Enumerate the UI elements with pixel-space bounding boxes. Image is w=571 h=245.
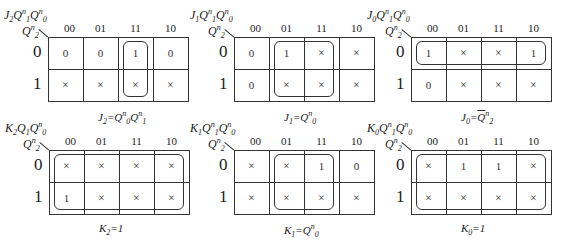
var-q0-subscript: 0	[229, 15, 233, 24]
equals-sign: =	[472, 222, 479, 234]
term-subscript: 0	[312, 117, 316, 126]
expression-term: Q	[303, 224, 311, 236]
kmap-cell: 0	[234, 69, 269, 101]
column-header: 11	[481, 22, 516, 34]
term-subscript: 2	[489, 117, 493, 126]
column-header: 01	[269, 22, 304, 34]
corner-diagonal	[401, 29, 411, 37]
kmap-cell: ×	[339, 69, 374, 101]
row-variable-label: Qn2	[23, 136, 40, 153]
corner-variable-label: K0Qn1Qn0	[367, 120, 412, 137]
kmap-cell: 0	[234, 37, 269, 69]
kmap-cell: ×	[339, 182, 374, 214]
var-q2-subscript: 2	[221, 31, 225, 40]
grouping-loop	[274, 154, 334, 210]
var-q0-subscript: 0	[43, 15, 47, 24]
var-q2: Q	[385, 137, 394, 151]
kmap-cell: ×	[234, 182, 269, 214]
corner-diagonal	[38, 29, 48, 37]
column-header: 01	[84, 135, 119, 147]
column-header: 00	[238, 22, 273, 34]
var-q1: Q	[379, 121, 388, 135]
kmap-cell: 0	[153, 37, 188, 69]
var-q2: Q	[22, 24, 31, 38]
row-header: 1	[219, 187, 228, 207]
var-q2-subscript: 2	[398, 144, 402, 153]
var-q0-subscript: 0	[406, 15, 410, 24]
output-variable: K	[5, 121, 13, 135]
corner-diagonal	[39, 142, 49, 150]
row-variable-label: Qn2	[208, 23, 225, 40]
kmap-cell: 0	[83, 37, 118, 69]
kmap-cell: ×	[83, 69, 118, 101]
row-header: 0	[33, 42, 42, 62]
var-q1: Q	[376, 8, 385, 22]
var-q2-subscript: 2	[36, 144, 40, 153]
column-header: 10	[153, 22, 188, 34]
kmap-cell: 0	[48, 37, 83, 69]
corner-variable-label: J2Qn1Qn0	[4, 7, 47, 24]
output-variable: K	[367, 121, 375, 135]
column-header: 00	[53, 135, 88, 147]
var-q2-subscript: 2	[398, 31, 402, 40]
var-q0: Q	[216, 8, 225, 22]
column-header: 11	[304, 135, 339, 147]
row-header: 0	[396, 42, 405, 62]
row-variable-label: Qn2	[385, 136, 402, 153]
row-header: 1	[219, 74, 228, 94]
corner-variable-label: J1Qn1Qn0	[190, 7, 233, 24]
var-q0-subscript: 0	[408, 128, 412, 137]
column-header: 11	[119, 135, 154, 147]
column-header: 01	[269, 135, 304, 147]
kmap-cell: ×	[234, 150, 269, 182]
column-header: 01	[83, 22, 118, 34]
simplified-expression: K0=1	[461, 222, 485, 237]
grouping-loop	[416, 41, 546, 65]
var-q2: Q	[23, 137, 32, 151]
column-header: 11	[118, 22, 153, 34]
kmap-cell: ×	[481, 69, 516, 101]
row-variable-label: Qn2	[208, 136, 225, 153]
column-header: 00	[238, 135, 273, 147]
column-header: 11	[304, 22, 339, 34]
output-variable: K	[190, 121, 198, 135]
kmap-cell: ×	[48, 69, 83, 101]
row-header: 0	[219, 155, 228, 175]
corner-variable-label: K1Qn1Qn0	[190, 120, 235, 137]
grouping-loop	[54, 154, 184, 210]
corner-variable-label: K2Q1Qn0	[5, 120, 46, 137]
var-q2: Q	[208, 137, 217, 151]
var-q2: Q	[208, 24, 217, 38]
equals-sign: =	[110, 222, 117, 234]
row-header: 1	[396, 74, 405, 94]
var-q2: Q	[385, 24, 394, 38]
column-header: 00	[415, 135, 450, 147]
column-header: 10	[154, 135, 189, 147]
grouping-loop	[123, 41, 148, 97]
corner-variable-label: J0Qn1Qn0	[367, 7, 410, 24]
column-header: 11	[481, 135, 516, 147]
corner-diagonal	[224, 142, 234, 150]
simplified-expression: J0=Qn2	[461, 109, 493, 126]
var-q0-subscript: 0	[231, 128, 235, 137]
grouping-loop	[416, 154, 546, 210]
row-header: 1	[34, 187, 43, 207]
term-subscript: 1	[142, 117, 146, 126]
simplified-expression: K1=Qn0	[284, 222, 319, 239]
row-header: 0	[396, 155, 405, 175]
kmap-cell: ×	[446, 69, 481, 101]
var-q1: Q	[13, 8, 22, 22]
kmap-cell: 0	[339, 150, 374, 182]
var-q0-subscript: 0	[42, 128, 46, 137]
expression-value: 1	[118, 222, 124, 234]
column-header: 10	[516, 22, 551, 34]
simplified-expression: K2=1	[99, 222, 123, 237]
row-header: 1	[33, 74, 42, 94]
var-q1: Q	[17, 121, 26, 135]
var-q1: Q	[199, 8, 208, 22]
var-q1: Q	[202, 121, 211, 135]
column-header: 00	[52, 22, 87, 34]
equals-sign: =	[295, 224, 302, 236]
kmap-cell: ×	[516, 69, 551, 101]
row-variable-label: Qn2	[385, 23, 402, 40]
